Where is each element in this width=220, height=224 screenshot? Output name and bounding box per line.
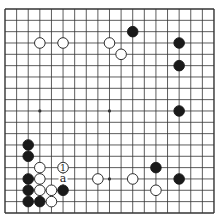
black-stone xyxy=(35,196,46,207)
white-stone xyxy=(93,174,104,185)
white-stone xyxy=(104,38,115,49)
point-label-marker: a xyxy=(59,172,68,185)
star-point xyxy=(108,177,111,180)
black-stone xyxy=(174,174,185,185)
black-stone xyxy=(174,60,185,71)
white-stone xyxy=(35,174,46,185)
go-board-diagram: 1 a xyxy=(0,0,220,216)
black-stone xyxy=(174,106,185,117)
black-stone xyxy=(23,151,34,162)
stones-layer: 1 xyxy=(23,26,185,207)
star-point xyxy=(108,109,111,112)
svg-text:a: a xyxy=(60,172,67,185)
markers-layer: a xyxy=(59,172,68,185)
black-stone xyxy=(23,185,34,196)
white-stone xyxy=(127,174,138,185)
black-stone xyxy=(151,162,162,173)
white-stone xyxy=(46,185,57,196)
white-stone: 1 xyxy=(58,162,69,173)
stone-move-number: 1 xyxy=(60,162,66,173)
white-stone xyxy=(35,162,46,173)
white-stone xyxy=(58,38,69,49)
white-stone xyxy=(35,38,46,49)
black-stone xyxy=(23,174,34,185)
black-stone xyxy=(58,185,69,196)
white-stone xyxy=(151,185,162,196)
black-stone xyxy=(127,26,138,37)
black-stone xyxy=(23,196,34,207)
white-stone xyxy=(35,185,46,196)
black-stone xyxy=(23,140,34,151)
star-point xyxy=(38,109,41,112)
black-stone xyxy=(174,38,185,49)
white-stone xyxy=(46,196,57,207)
white-stone xyxy=(116,49,127,60)
